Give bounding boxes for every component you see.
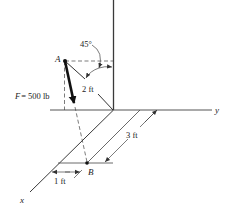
dimension-3ft: 3 ft: [126, 130, 138, 140]
point-A-label: A: [54, 54, 61, 64]
angle-arc-45: [92, 45, 100, 68]
y-axis-label: y: [214, 105, 219, 115]
dimension-1ft: 1 ft: [54, 176, 66, 186]
dimension-3ft-upper-arrow: [145, 110, 157, 122]
dashed-line-A-to-B: [75, 107, 87, 162]
angle-arc-lower-2: [86, 68, 99, 78]
point-B-label: B: [88, 167, 94, 177]
x-axis-label: x: [19, 195, 24, 205]
force-diagram: y x 2 ft 45° A F= 500 lb B 3 ft 1 ft: [0, 0, 241, 213]
dimension-1ft-extension: [74, 170, 82, 178]
segment-A-origin-lower: [98, 94, 113, 110]
dimension-2ft: 2 ft: [82, 84, 94, 94]
x-axis: [30, 110, 114, 192]
point-A: [63, 59, 67, 63]
dimension-3ft-lower: [105, 139, 128, 162]
angle-arc-lower: [99, 67, 112, 68]
point-B: [85, 161, 89, 165]
angle-label-45: 45°: [80, 39, 92, 49]
force-label: F= 500 lb: [14, 91, 50, 101]
